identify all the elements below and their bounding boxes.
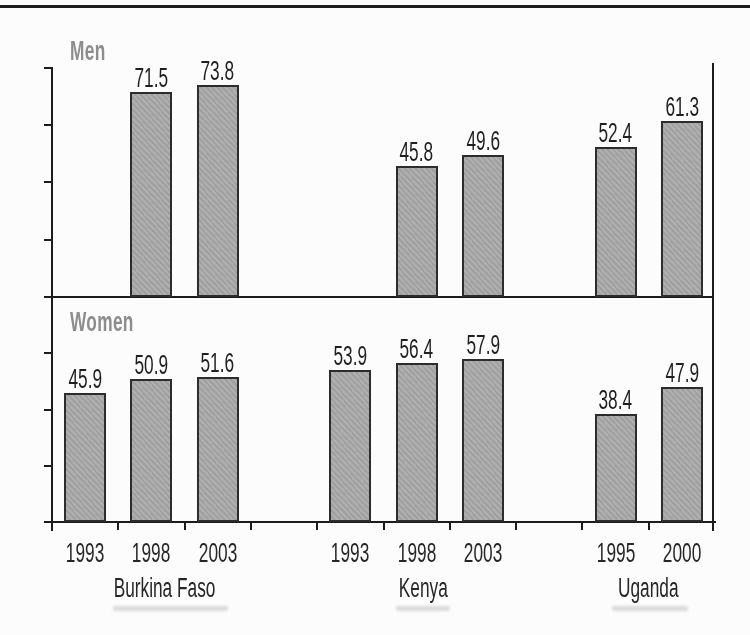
value-label: 73.8 [168,58,268,85]
value-label-text: 51.6 [201,350,235,377]
bar-women-uganda-2000 [661,387,703,522]
scan-artifact [113,606,228,611]
bar-men-uganda-2000 [661,121,703,297]
bar-women-burkina-faso-1993 [64,393,106,522]
panel-label-women-text: Women [70,309,134,336]
panel-label-men-text: Men [70,38,106,65]
panel-label-men: Men [70,38,126,65]
x-tick-label-year-text: 1993 [331,540,369,567]
x-axis-tick [184,521,186,530]
bar-women-kenya-1993 [329,370,371,522]
y-axis-tick [44,181,52,183]
x-tick-label-year-text: 1998 [132,540,170,567]
x-axis-tick [581,521,583,530]
x-axis-tick [316,521,318,530]
figure-page: Men Women 71.573.845.849.652.461.345.950… [0,0,750,635]
value-label-text: 49.6 [466,128,500,155]
x-tick-label-year-text: 2000 [663,540,701,567]
value-label: 61.3 [632,94,732,121]
y-axis-tick [44,124,52,126]
grouped-bar-chart: Men Women 71.573.845.849.652.461.345.950… [0,0,750,635]
bar-women-kenya-1998 [396,363,438,522]
x-tick-label-year-text: 2003 [464,540,502,567]
value-label-text: 53.9 [334,343,368,370]
x-tick-label-year-text: 1998 [397,540,435,567]
value-label-text: 61.3 [665,94,699,121]
bar-women-uganda-1995 [595,414,637,522]
value-label-text: 73.8 [201,58,235,85]
value-label-text: 45.8 [400,139,434,166]
x-axis-tick [515,521,517,530]
x-tick-label-year-text: 1993 [66,540,104,567]
x-group-label-country: Burkina Faso [54,575,274,602]
value-label: 38.4 [566,387,666,414]
value-label-text: 57.9 [466,332,500,359]
value-label: 52.4 [566,120,666,147]
x-axis-tick [449,521,451,530]
bar-men-burkina-faso-1998 [130,92,172,297]
value-label-text: 38.4 [599,387,633,414]
x-group-label-country: Uganda [539,575,750,602]
bar-men-kenya-2003 [462,155,504,297]
bar-men-kenya-1998 [396,166,438,297]
value-label: 51.6 [168,350,268,377]
x-group-label-country-text: Uganda [618,575,679,602]
panel-label-women: Women [70,309,170,336]
y-axis-tick [44,239,52,241]
value-label-text: 71.5 [135,65,169,92]
y-axis-tick [44,67,52,69]
value-label-text: 47.9 [665,360,699,387]
x-group-label-country-text: Burkina Faso [114,575,216,602]
x-axis-tick [648,521,650,530]
x-tick-label-year: 2003 [433,540,533,567]
x-axis-tick [117,521,119,530]
bar-women-kenya-2003 [462,359,504,522]
y-axis-tick [44,352,52,354]
value-label: 47.9 [632,360,732,387]
x-group-label-country-text: Kenya [399,575,448,602]
value-label-text: 45.9 [68,366,102,393]
value-label: 57.9 [433,332,533,359]
x-tick-label-year-text: 1995 [596,540,634,567]
scan-artifact [612,606,688,611]
value-label: 49.6 [433,128,533,155]
x-tick-label-year: 2000 [632,540,732,567]
x-axis-tick [250,521,252,530]
x-axis-tick [383,521,385,530]
x-tick-label-year-text: 2003 [199,540,237,567]
value-label-text: 56.4 [400,336,434,363]
bar-men-burkina-faso-2003 [197,85,239,297]
bar-women-burkina-faso-2003 [197,377,239,522]
value-label-text: 50.9 [135,352,169,379]
bar-women-burkina-faso-1998 [130,379,172,522]
x-group-label-country: Kenya [314,575,534,602]
y-axis-tick [44,409,52,411]
x-tick-label-year: 2003 [168,540,268,567]
y-axis-tick [44,465,52,467]
value-label-text: 52.4 [599,120,633,147]
y-axis-line [51,67,53,531]
bar-men-uganda-1995 [595,147,637,297]
scan-artifact [396,606,450,611]
